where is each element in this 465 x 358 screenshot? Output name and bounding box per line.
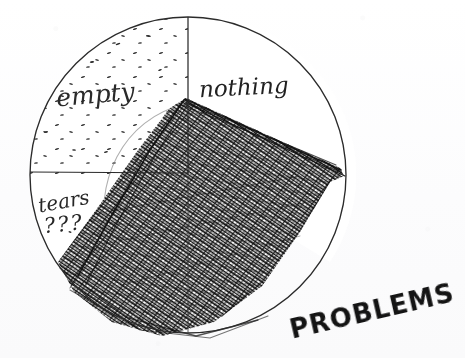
pie-chart-drawing: [0, 0, 465, 358]
pie-chart-page: empty nothing tears ??? PROBLEMS: [0, 0, 465, 358]
